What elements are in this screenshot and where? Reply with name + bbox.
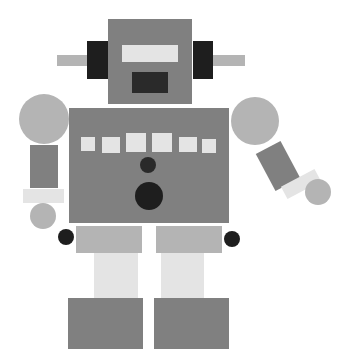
chest-button [152, 133, 172, 152]
arm-left [30, 145, 58, 188]
foot-right [154, 298, 229, 349]
knee-joint-right [224, 231, 240, 247]
shoulder-right [231, 97, 279, 145]
antenna-left [57, 55, 88, 66]
chest-button [81, 137, 95, 151]
ear-right [193, 41, 213, 79]
knee-joint-left [58, 229, 74, 245]
hand-right [305, 179, 331, 205]
thigh-right [156, 226, 222, 253]
hand-left [30, 203, 56, 229]
shin-right [161, 253, 204, 299]
robot-illustration [0, 0, 353, 358]
chest-button [126, 133, 146, 152]
chest-button [202, 139, 216, 153]
chest-button [102, 137, 120, 153]
chest-dot-small [140, 157, 156, 173]
wrist-band-left [23, 189, 64, 203]
eye-visor [122, 45, 178, 62]
thigh-left [76, 226, 142, 253]
antenna-right [212, 55, 245, 66]
chest-button [179, 137, 197, 152]
chest-dot-large [135, 182, 163, 210]
mouth [132, 72, 168, 93]
shin-left [94, 253, 138, 299]
shoulder-left [19, 94, 69, 144]
foot-left [68, 298, 143, 349]
ear-left [87, 41, 108, 79]
